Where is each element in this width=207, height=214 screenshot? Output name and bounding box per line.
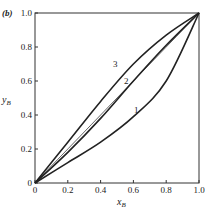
y-tick-label: 0.4 [21, 110, 33, 120]
y-tick-label: 0.6 [21, 76, 33, 86]
curve-label-1: 1 [134, 105, 139, 115]
panel-label: (b) [2, 8, 13, 18]
y-tick-label: 0.8 [21, 42, 33, 52]
x-tick-label: 0.4 [95, 185, 107, 195]
curve-label-3: 3 [113, 59, 118, 69]
x-tick-label: 1.0 [193, 185, 205, 195]
y-tick-label: 0.2 [21, 144, 32, 154]
x-tick-label: 0.8 [161, 185, 173, 195]
x-tick-label: 0.6 [128, 185, 140, 195]
y-axis-label: yB [1, 94, 11, 107]
y-tick-label: 1.0 [21, 8, 33, 18]
x-tick-label: 0 [33, 185, 38, 195]
y-tick-label: 0 [28, 178, 33, 188]
curve-diagonal [35, 13, 199, 183]
x-tick-label: 0.2 [62, 185, 73, 195]
vle-chart: (b) 00.20.40.60.81.000.20.40.60.81.0 xB … [0, 0, 207, 214]
curve-label-2: 2 [124, 76, 129, 86]
curves [35, 13, 199, 183]
x-axis-label: xB [116, 196, 126, 209]
